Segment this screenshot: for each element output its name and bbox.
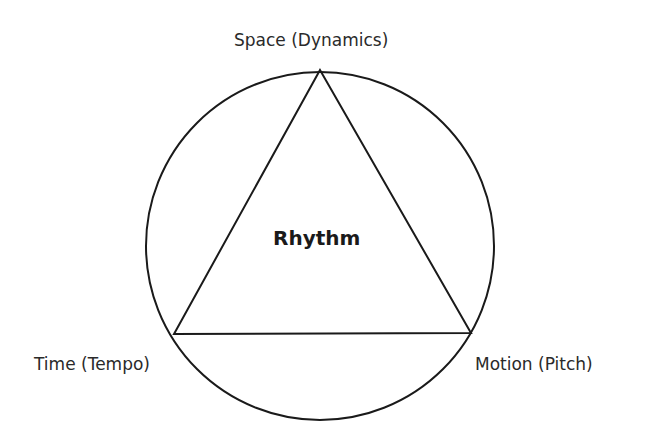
rhythm-diagram: [0, 0, 647, 443]
label-motion-pitch: Motion (Pitch): [475, 354, 593, 374]
label-time-tempo: Time (Tempo): [34, 354, 150, 374]
center-label-rhythm: Rhythm: [273, 226, 360, 250]
label-space-dynamics: Space (Dynamics): [234, 30, 388, 50]
